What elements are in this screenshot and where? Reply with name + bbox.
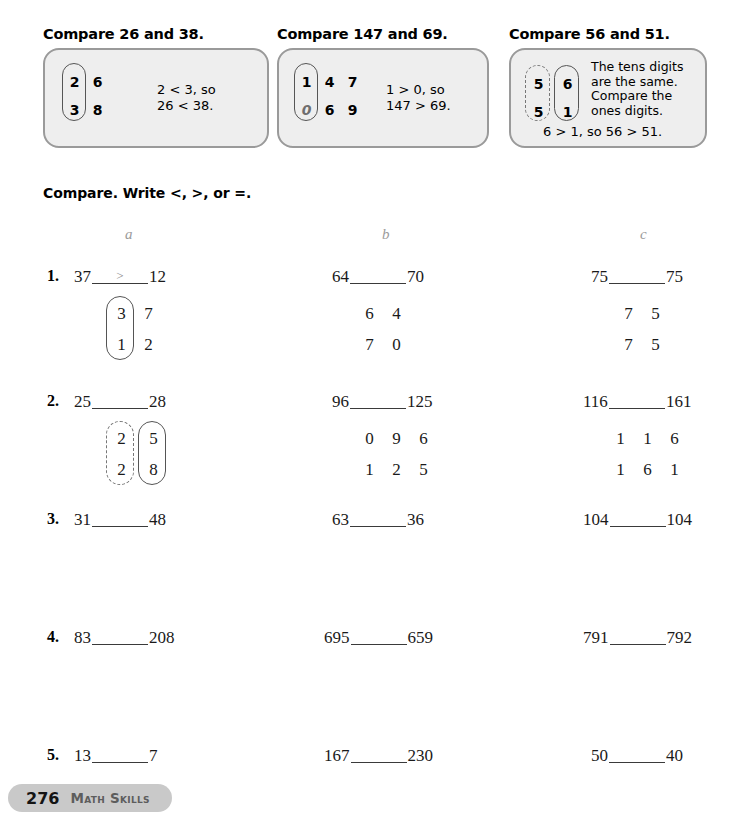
example-1-top-row: 2 6 (63, 68, 109, 96)
answer-blank-2c[interactable] (609, 394, 665, 409)
digit: 2 (135, 335, 162, 355)
problem-4c[interactable]: 791792 (583, 628, 692, 648)
left-operand: 25 (74, 392, 91, 412)
example-1-bottom-row: 3 8 (63, 96, 109, 124)
right-operand: 792 (667, 628, 693, 648)
work-area-2c: 1 1 6 1 6 1 (607, 423, 688, 485)
example-1-digits: 2 6 3 8 (63, 68, 109, 124)
problem-2c[interactable]: 116161 (583, 392, 691, 412)
problem-number: 1. (47, 267, 59, 285)
answer-blank-5c[interactable] (609, 748, 665, 763)
left-operand: 63 (332, 510, 349, 530)
work-area-2a-ones: 5 8 (140, 423, 167, 485)
problem-3a[interactable]: 3148 (74, 510, 166, 530)
digit: 2 (108, 429, 135, 449)
worked-example-1: Compare 26 and 38. 2 6 3 8 2 < 3, so 26 … (43, 26, 269, 148)
digit: 1 (356, 460, 383, 480)
digit: 5 (410, 460, 437, 480)
problem-4b[interactable]: 695659 (324, 628, 433, 648)
answer-blank-3a[interactable] (92, 512, 148, 527)
digit: 6 (634, 460, 661, 480)
right-operand: 70 (407, 267, 424, 287)
example-3-ones-digits: 6 1 (556, 70, 579, 126)
work-row-top: 6 4 (356, 298, 410, 329)
left-operand: 167 (324, 746, 350, 766)
problem-4a[interactable]: 83208 (74, 628, 175, 648)
answer-blank-4a[interactable] (92, 630, 148, 645)
digit: 7 (356, 335, 383, 355)
left-operand: 13 (74, 746, 91, 766)
right-operand: 75 (666, 267, 683, 287)
right-operand: 208 (149, 628, 175, 648)
left-operand: 37 (74, 267, 91, 287)
digit: 7 (615, 335, 642, 355)
sample-answer: > (92, 270, 148, 282)
digit: 3 (108, 304, 135, 324)
answer-blank-3c[interactable] (610, 512, 666, 527)
digit: 1 (607, 429, 634, 449)
right-operand: 40 (666, 746, 683, 766)
right-operand: 161 (666, 392, 692, 412)
digit: 5 (642, 335, 669, 355)
answer-blank-5b[interactable] (351, 748, 407, 763)
example-2-bottom-row: 0 6 9 (295, 96, 364, 124)
work-row-top: 0 9 6 (356, 423, 437, 454)
work-row-bottom: 1 2 (108, 329, 162, 360)
example-3-tens-top: 5 (527, 70, 550, 98)
problem-3b[interactable]: 6336 (332, 510, 424, 530)
digit: 2 (108, 460, 135, 480)
digit: 8 (140, 460, 167, 480)
answer-blank-4b[interactable] (351, 630, 407, 645)
answer-blank-4c[interactable] (610, 630, 666, 645)
problem-2a[interactable]: 2528 (74, 392, 166, 412)
worked-example-2: Compare 147 and 69. 1 4 7 0 6 9 1 > 0, s… (277, 26, 489, 148)
problem-5a[interactable]: 137 (74, 746, 158, 766)
directions-text: Compare. Write <, >, or =. (43, 185, 251, 201)
digit: 1 (634, 429, 661, 449)
answer-blank-1b[interactable] (350, 269, 406, 284)
digit: 0 (383, 335, 410, 355)
problem-number: 2. (47, 392, 59, 410)
left-operand: 75 (591, 267, 608, 287)
answer-blank-1c[interactable] (609, 269, 665, 284)
problem-1b[interactable]: 6470 (332, 267, 424, 287)
left-operand: 791 (583, 628, 609, 648)
digit: 6 (86, 74, 109, 90)
problem-2b[interactable]: 96125 (332, 392, 433, 412)
right-operand: 7 (149, 746, 158, 766)
example-2-box: 1 4 7 0 6 9 1 > 0, so 147 > 69. (277, 48, 489, 148)
digit: 6 (410, 429, 437, 449)
digit: 4 (318, 74, 341, 90)
digit: 5 (140, 429, 167, 449)
column-header-b: b (382, 226, 390, 243)
example-3-tens-bottom: 5 (527, 98, 550, 126)
answer-blank-1a[interactable]: > (92, 269, 148, 284)
digit: 9 (383, 429, 410, 449)
problem-5c[interactable]: 5040 (591, 746, 683, 766)
work-row-top: 5 (140, 423, 167, 454)
work-row-bottom: 1 2 5 (356, 454, 437, 485)
work-row-top: 3 7 (108, 298, 162, 329)
answer-blank-3b[interactable] (350, 512, 406, 527)
problem-1c[interactable]: 7575 (591, 267, 683, 287)
answer-blank-5a[interactable] (92, 748, 148, 763)
right-operand: 659 (408, 628, 434, 648)
right-operand: 48 (149, 510, 166, 530)
work-row-top: 7 5 (615, 298, 669, 329)
problem-number: 4. (47, 628, 59, 646)
digit: 6 (556, 76, 579, 92)
problem-number: 3. (47, 510, 59, 528)
problem-1a[interactable]: 37>12 (74, 267, 166, 287)
work-row-bottom: 1 6 1 (607, 454, 688, 485)
footer-label: Math Skills (70, 790, 149, 806)
answer-blank-2a[interactable] (92, 394, 148, 409)
column-header-c: c (640, 226, 647, 243)
example-3-box: 5 5 6 1 The tens digits are the same. Co… (509, 48, 707, 148)
digit: 2 (383, 460, 410, 480)
work-row-top: 1 1 6 (607, 423, 688, 454)
digit: 5 (527, 104, 550, 120)
answer-blank-2b[interactable] (350, 394, 406, 409)
problem-3c[interactable]: 104104 (583, 510, 692, 530)
example-1-explanation: 2 < 3, so 26 < 38. (157, 82, 216, 113)
problem-5b[interactable]: 167230 (324, 746, 433, 766)
